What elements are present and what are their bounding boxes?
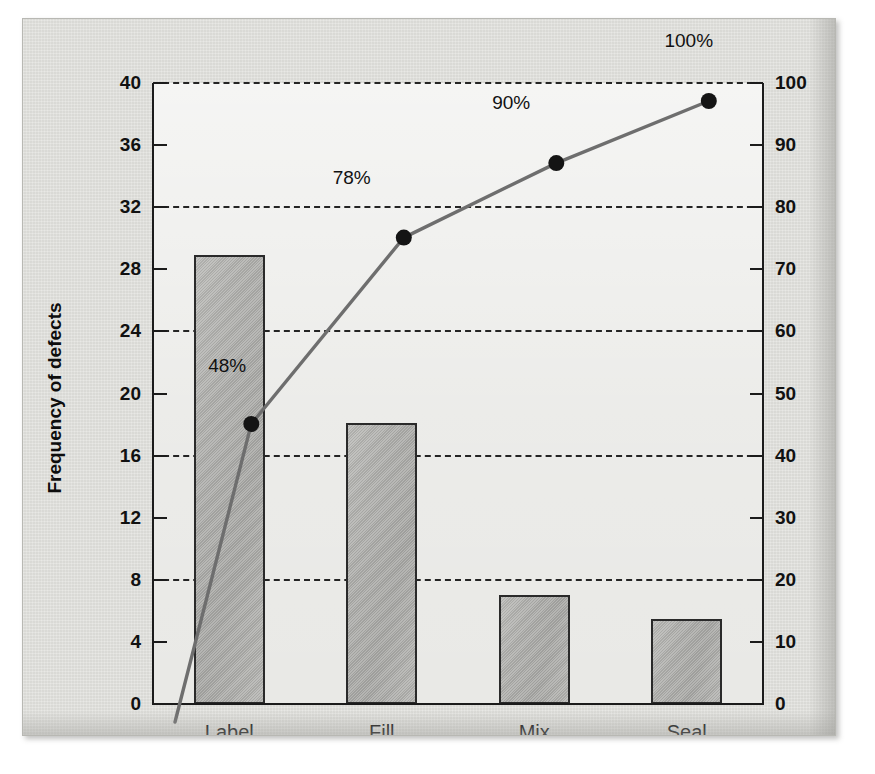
chart-plate: 0481216202428323640010203040506070809010… bbox=[22, 18, 836, 736]
gridline bbox=[153, 206, 763, 208]
gridline bbox=[153, 82, 763, 84]
right-axis-tick-label-wrap: 50 bbox=[775, 384, 836, 403]
bottom-axis-line bbox=[152, 703, 764, 705]
right-axis-line bbox=[762, 83, 764, 705]
right-axis-tick-label-wrap: 60 bbox=[775, 321, 836, 340]
bar-texture bbox=[196, 257, 263, 702]
left-axis-tick bbox=[154, 144, 167, 146]
left-axis-tick-label: 20 bbox=[57, 384, 141, 403]
left-axis-tick-label-wrap: 12 bbox=[57, 508, 141, 527]
left-axis-tick-label: 4 bbox=[57, 632, 141, 651]
right-axis-tick-label: 70 bbox=[775, 259, 836, 278]
left-axis-tick-label-wrap: 24 bbox=[57, 321, 141, 340]
cumulative-percentage-annotation: 90% bbox=[492, 92, 530, 114]
left-axis-tick-label: 32 bbox=[57, 197, 141, 216]
right-axis-tick-label-wrap: 0 bbox=[775, 694, 836, 713]
right-axis-tick-label-wrap: 40 bbox=[775, 446, 836, 465]
category-label-label: Label bbox=[205, 721, 254, 736]
cumulative-percentage-annotation: 100% bbox=[664, 30, 713, 52]
left-axis-tick-label: 12 bbox=[57, 508, 141, 527]
left-axis-tick-label-wrap: 20 bbox=[57, 384, 141, 403]
left-axis-tick-label: 36 bbox=[57, 135, 141, 154]
right-axis-tick-label: 100 bbox=[775, 73, 836, 92]
left-axis-tick-label-wrap: 0 bbox=[57, 694, 141, 713]
right-axis-tick-label: 0 bbox=[775, 694, 836, 713]
right-axis-tick-label: 60 bbox=[775, 321, 836, 340]
left-axis-tick-label-wrap: 8 bbox=[57, 570, 141, 589]
left-axis-tick bbox=[154, 455, 167, 457]
left-axis-tick-label-wrap: 36 bbox=[57, 135, 141, 154]
pareto-chart-figure: 0481216202428323640010203040506070809010… bbox=[0, 0, 875, 774]
left-axis-tick-label: 24 bbox=[57, 321, 141, 340]
left-axis-tick bbox=[154, 393, 167, 395]
plate-right-shading bbox=[809, 19, 835, 735]
left-axis-tick-label: 0 bbox=[57, 694, 141, 713]
left-axis-tick-label-wrap: 16 bbox=[57, 446, 141, 465]
right-axis-tick-label-wrap: 100 bbox=[775, 73, 836, 92]
bar-label bbox=[194, 255, 265, 704]
bar-mix bbox=[499, 595, 570, 704]
left-axis-tick-label: 28 bbox=[57, 259, 141, 278]
right-axis-tick-label-wrap: 80 bbox=[775, 197, 836, 216]
plate-bottom-shading bbox=[23, 711, 835, 735]
category-label-seal: Seal bbox=[667, 721, 707, 736]
left-axis-tick bbox=[154, 517, 167, 519]
left-axis-line bbox=[152, 83, 154, 705]
right-axis-tick-label-wrap: 70 bbox=[775, 259, 836, 278]
right-axis-tick-label: 30 bbox=[775, 508, 836, 527]
left-axis-tick-label-wrap: 40 bbox=[57, 73, 141, 92]
left-axis-tick-label-wrap: 32 bbox=[57, 197, 141, 216]
cumulative-percentage-annotation: 48% bbox=[208, 355, 246, 377]
left-axis-tick-label: 8 bbox=[57, 570, 141, 589]
left-axis-tick bbox=[154, 82, 167, 84]
left-axis-tick bbox=[154, 330, 167, 332]
right-axis-tick-label: 90 bbox=[775, 135, 836, 154]
left-axis-tick bbox=[154, 579, 167, 581]
left-axis-tick bbox=[154, 268, 167, 270]
right-axis-tick-label-wrap: 30 bbox=[775, 508, 836, 527]
category-label-mix: Mix bbox=[519, 721, 550, 736]
bar-fill bbox=[346, 423, 417, 704]
right-axis-tick-label-wrap: 90 bbox=[775, 135, 836, 154]
left-axis-tick bbox=[154, 206, 167, 208]
left-axis-tick-label: 40 bbox=[57, 73, 141, 92]
right-axis-tick-label-wrap: 10 bbox=[775, 632, 836, 651]
bar-texture bbox=[653, 621, 720, 702]
left-axis-tick-label-wrap: 28 bbox=[57, 259, 141, 278]
left-axis-title: Frequency of defects bbox=[44, 248, 66, 548]
left-axis-tick-label: 16 bbox=[57, 446, 141, 465]
right-axis-tick-label: 40 bbox=[775, 446, 836, 465]
right-axis-tick-label: 80 bbox=[775, 197, 836, 216]
category-label-fill: Fill bbox=[369, 721, 395, 736]
right-axis-tick-label: 20 bbox=[775, 570, 836, 589]
bar-texture bbox=[501, 597, 568, 702]
right-axis-tick-label: 50 bbox=[775, 384, 836, 403]
bar-seal bbox=[651, 619, 722, 704]
bar-texture bbox=[348, 425, 415, 702]
left-axis-tick bbox=[154, 641, 167, 643]
left-axis-tick-label-wrap: 4 bbox=[57, 632, 141, 651]
right-axis-tick-label-wrap: 20 bbox=[775, 570, 836, 589]
right-axis-tick-label: 10 bbox=[775, 632, 836, 651]
cumulative-percentage-annotation: 78% bbox=[333, 167, 371, 189]
